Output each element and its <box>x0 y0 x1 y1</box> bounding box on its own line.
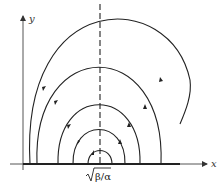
orbit-3 <box>58 105 140 164</box>
arrow-icon <box>67 124 71 129</box>
arrow-icon <box>54 100 58 105</box>
arrow-icon <box>159 77 163 82</box>
trajectories <box>30 19 191 164</box>
arrow-icon <box>143 104 147 109</box>
y-axis-label: y <box>28 13 35 24</box>
center-marker-label: β/α <box>86 168 111 182</box>
orbit-4 <box>37 67 161 164</box>
x-axis-label: x <box>211 158 217 169</box>
radicand-text: β/α <box>95 171 111 182</box>
phase-portrait-diagram: y x β/α <box>0 0 224 186</box>
orbit-2 <box>73 130 125 165</box>
orbit-5 <box>30 19 191 164</box>
arrow-icon <box>42 86 46 91</box>
